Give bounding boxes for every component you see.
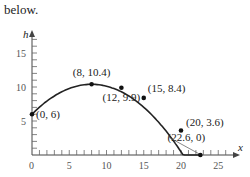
data-point: [89, 82, 94, 87]
y-tick-label: 15: [16, 48, 26, 59]
point-label: (0, 6): [36, 108, 60, 121]
point-label: (8, 10.4): [73, 66, 111, 79]
data-point: [119, 85, 124, 90]
y-tick-label: 5: [21, 116, 26, 127]
y-tick-label: 10: [16, 82, 26, 93]
trajectory-chart: xh051015202551015(0, 6)(8, 10.4)(12, 9.9…: [0, 0, 250, 177]
x-tick-label: 20: [176, 160, 186, 171]
x-axis-label: x: [237, 141, 243, 153]
point-label: (20, 3.6): [186, 116, 224, 129]
data-point: [30, 112, 35, 117]
x-tick-label: 25: [213, 160, 223, 171]
point-label: (12, 9.9): [103, 91, 141, 104]
point-label: (15, 8.4): [148, 82, 186, 95]
y-axis-arrow-icon: [29, 30, 35, 37]
x-tick-label: 5: [67, 160, 72, 171]
data-point: [141, 96, 146, 101]
x-tick-label: 0: [29, 160, 34, 171]
x-tick-label: 15: [139, 160, 149, 171]
point-label: (22.6, 0): [168, 131, 206, 144]
x-tick-label: 10: [102, 160, 112, 171]
y-axis-label: h: [23, 28, 29, 40]
